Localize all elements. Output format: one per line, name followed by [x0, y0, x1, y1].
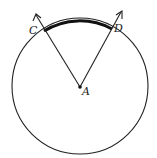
label-c: C	[29, 24, 38, 37]
circle-diagram: C D A	[0, 0, 157, 158]
label-a: A	[81, 85, 90, 98]
arc-cd	[44, 21, 112, 31]
label-d: D	[113, 22, 123, 35]
